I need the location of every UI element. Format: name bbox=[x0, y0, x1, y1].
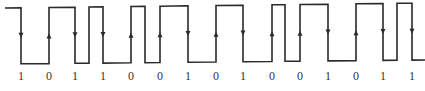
bit-label: 0 bbox=[269, 69, 275, 83]
signal-waveform bbox=[5, 3, 425, 64]
bit-label: 0 bbox=[128, 69, 134, 83]
bit-label: 0 bbox=[353, 69, 359, 83]
bit-label: 1 bbox=[185, 69, 191, 83]
bit-label: 1 bbox=[18, 69, 24, 83]
arrow-down-icon bbox=[73, 32, 78, 37]
arrow-down-icon bbox=[410, 29, 415, 34]
bit-label: 1 bbox=[240, 69, 246, 83]
arrow-up-icon bbox=[158, 32, 163, 37]
bit-label: 0 bbox=[213, 69, 219, 83]
arrow-down-icon bbox=[241, 30, 246, 35]
arrow-up-icon bbox=[270, 31, 275, 36]
arrow-down-icon bbox=[19, 33, 24, 38]
arrow-up-icon bbox=[129, 33, 134, 38]
bit-label: 1 bbox=[100, 69, 106, 83]
arrow-down-icon bbox=[101, 32, 106, 37]
bit-label: 0 bbox=[157, 69, 163, 83]
waveform-diagram: 101100101001011 bbox=[0, 0, 425, 91]
bit-label: 1 bbox=[409, 69, 415, 83]
arrow-up-icon bbox=[47, 34, 52, 39]
bit-label: 1 bbox=[72, 69, 78, 83]
arrow-up-icon bbox=[298, 31, 303, 36]
bit-labels: 101100101001011 bbox=[18, 69, 415, 83]
arrow-up-icon bbox=[214, 32, 219, 37]
arrow-down-icon bbox=[326, 30, 331, 35]
arrow-up-icon bbox=[354, 30, 359, 35]
arrow-down-icon bbox=[381, 29, 386, 34]
arrow-down-icon bbox=[186, 31, 191, 36]
bit-label: 0 bbox=[46, 69, 52, 83]
bit-label: 1 bbox=[325, 69, 331, 83]
bit-label: 0 bbox=[297, 69, 303, 83]
bit-label: 1 bbox=[380, 69, 386, 83]
